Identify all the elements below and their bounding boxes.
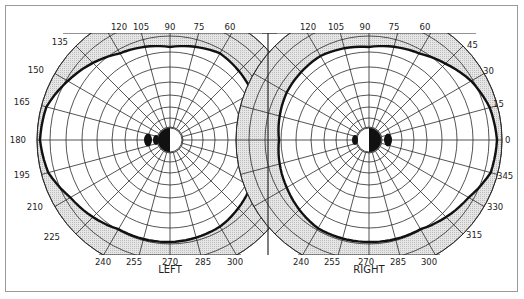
angle-tick-label: 0 [505,135,510,145]
right-eye-field [236,7,502,273]
angle-tick-label: 165 [14,97,30,107]
angle-tick-label: 255 [324,257,340,267]
left-eye-label: LEFT [158,264,182,275]
right-eye-label: RIGHT [353,264,385,275]
angle-tick-label: 210 [27,202,43,212]
blind-spot [144,134,152,147]
angle-tick-label: 180 [10,135,26,145]
angle-tick-label: 300 [227,257,243,267]
angle-tick-label: 255 [126,257,142,267]
angle-tick-label: 60 [420,22,431,32]
angle-tick-label: 225 [44,232,60,242]
angle-tick-label: 90 [360,22,371,32]
angle-tick-label: 90 [165,22,176,32]
angle-tick-label: 120 [300,22,316,32]
angle-tick-label: 330 [487,202,503,212]
angle-tick-label: 240 [95,257,111,267]
angle-tick-label: 60 [225,22,236,32]
angle-tick-label: 315 [466,230,482,240]
blind-spot [384,134,392,147]
angle-tick-label: 75 [194,22,205,32]
angle-tick-label: 135 [52,37,68,47]
angle-tick-label: 105 [328,22,344,32]
angle-tick-label: 15 [493,99,504,109]
angle-tick-label: 105 [133,22,149,32]
angle-tick-label: 30 [483,66,494,76]
angle-tick-label: 285 [390,257,406,267]
angle-tick-label: 195 [14,170,30,180]
angle-tick-label: 75 [389,22,400,32]
angle-tick-label: 120 [111,22,127,32]
angle-tick-label: 45 [467,40,478,50]
angle-tick-label: 150 [28,65,44,75]
angle-tick-label: 240 [293,257,309,267]
angle-tick-label: 345 [497,171,513,181]
angle-tick-label: 300 [421,257,437,267]
angle-tick-label: 285 [195,257,211,267]
visual-field-chart: 1201059075601351501651801952102252402552… [0,0,524,299]
